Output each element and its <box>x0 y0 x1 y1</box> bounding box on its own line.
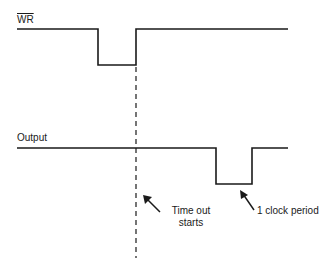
clock-arrow-icon <box>240 190 254 210</box>
timeout-arrow-icon <box>143 195 160 212</box>
timeout-annotation: Time out starts <box>163 205 219 229</box>
wr-waveform <box>17 29 288 65</box>
clock-annotation: 1 clock period <box>257 205 319 217</box>
timeout-line2: starts <box>163 217 219 229</box>
timing-diagram: WR Output Time out starts 1 clock period <box>0 0 331 272</box>
timeout-line1: Time out <box>163 205 219 217</box>
output-label: Output <box>17 132 47 144</box>
wr-label: WR <box>17 14 34 26</box>
output-waveform <box>17 148 288 184</box>
waveforms <box>0 0 331 272</box>
